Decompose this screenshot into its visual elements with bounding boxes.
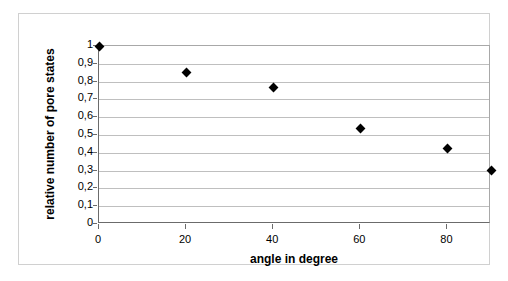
- x-tick-mark: [359, 224, 360, 229]
- y-tick-mark: [93, 63, 97, 64]
- chart-figure: 10,90,80,70,60,50,40,30,20,10 020406080 …: [0, 0, 508, 281]
- y-tick-mark: [93, 81, 97, 82]
- y-axis-title-wrapper: relative number of pore states: [41, 45, 59, 223]
- gridline: [99, 135, 489, 136]
- y-tick-mark: [93, 98, 97, 99]
- gridline: [99, 206, 489, 207]
- data-point: [442, 143, 452, 153]
- data-point: [181, 68, 191, 78]
- x-tick-label: 80: [426, 233, 466, 245]
- x-tick-label: 20: [165, 233, 205, 245]
- y-axis-title: relative number of pore states: [43, 48, 57, 219]
- y-tick-mark: [93, 116, 97, 117]
- data-point: [486, 166, 496, 176]
- x-tick-mark: [185, 224, 186, 229]
- x-axis-ticks: 020406080: [98, 224, 491, 250]
- y-tick-mark: [93, 170, 97, 171]
- y-tick-mark: [93, 134, 97, 135]
- gridline: [99, 64, 489, 65]
- chart-frame: 10,90,80,70,60,50,40,30,20,10 020406080 …: [18, 13, 490, 265]
- gridline: [99, 117, 489, 118]
- gridline: [99, 171, 489, 172]
- x-axis-title: angle in degree: [98, 252, 490, 266]
- gridline: [99, 153, 489, 154]
- y-tick-mark: [93, 205, 97, 206]
- plot-area: [98, 45, 490, 223]
- x-tick-mark: [446, 224, 447, 229]
- x-tick-label: 0: [78, 233, 118, 245]
- x-tick-mark: [272, 224, 273, 229]
- x-tick-mark: [98, 224, 99, 229]
- gridline: [99, 188, 489, 189]
- data-point: [268, 83, 278, 93]
- gridline: [99, 99, 489, 100]
- gridline: [99, 82, 489, 83]
- x-tick-label: 40: [252, 233, 292, 245]
- y-tick-mark: [93, 152, 97, 153]
- y-tick-mark: [93, 223, 97, 224]
- x-tick-label: 60: [339, 233, 379, 245]
- y-tick-mark: [93, 187, 97, 188]
- data-point: [355, 124, 365, 134]
